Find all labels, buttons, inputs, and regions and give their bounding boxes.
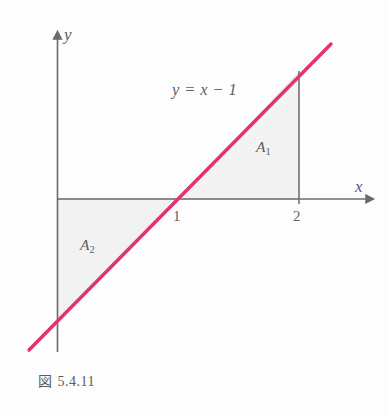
equation-label: y = x − 1 [172,82,237,99]
figure-container: y x y = x − 1 A1 A2 1 2 図5.4.11 [0,0,389,417]
figure-caption: 図5.4.11 [38,370,95,390]
region-label-a2: A2 [80,237,95,255]
region-label-a1: A1 [256,139,271,157]
figure-caption-number: 5.4.11 [58,374,95,389]
region-label-a1-subscript: 1 [265,146,270,157]
region-label-a2-subscript: 2 [89,244,94,255]
x-tick-label-2: 2 [293,209,301,224]
axis-label-x: x [355,178,363,195]
axis-label-y: y [64,26,72,43]
plot-canvas [0,0,389,417]
x-tick-label-1: 1 [173,209,181,224]
figure-caption-prefix: 図 [38,374,53,389]
